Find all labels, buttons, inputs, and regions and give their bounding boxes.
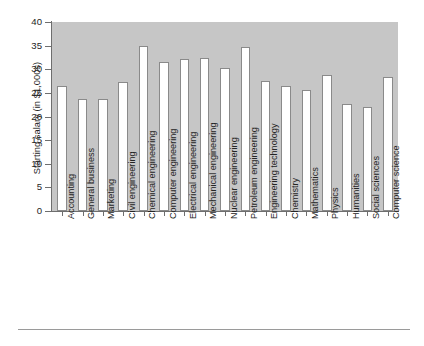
bar [200,58,210,211]
x-tick [62,212,63,216]
bar [57,86,67,211]
x-tick [103,212,104,216]
x-tick [286,212,287,216]
y-tick-label-10: 10 [0,159,42,169]
x-tick [164,212,165,216]
y-tick-label-40: 40 [0,17,42,27]
bar [118,82,128,211]
bar [261,81,271,211]
y-tick-label-35: 35 [0,41,42,51]
bar [322,75,332,211]
bar [383,77,393,211]
x-tick [123,212,124,216]
x-tick [245,212,246,216]
x-tick [184,212,185,216]
x-tick [225,212,226,216]
y-tick-label-15: 15 [0,135,42,145]
y-tick-label-0: 0 [0,206,42,216]
bar [98,99,108,211]
x-tick [367,212,368,216]
y-tick-label-5: 5 [0,182,42,192]
y-tick-25 [45,93,52,94]
bar [139,46,149,211]
x-tick [205,212,206,216]
x-tick [347,212,348,216]
y-tick-10 [45,164,52,165]
y-tick-40 [45,22,52,23]
page-top-artifact [40,3,240,9]
y-tick-15 [45,140,52,141]
bottom-divider [18,329,410,330]
bar [220,68,230,211]
bar-chart-figure: Starting salary (in $1,000s) 40353025201… [0,0,424,346]
bar [363,107,373,211]
x-tick [327,212,328,216]
y-tick-35 [45,46,52,47]
bar-series [52,22,398,211]
y-tick-30 [45,69,52,70]
y-tick-20 [45,117,52,118]
x-tick [266,212,267,216]
bar [180,59,190,211]
bar [302,90,312,211]
bar [159,62,169,211]
x-tick [144,212,145,216]
x-tick [306,212,307,216]
bar [78,99,88,211]
y-tick-label-25: 25 [0,88,42,98]
y-tick-label-20: 20 [0,112,42,122]
bar [241,47,251,211]
bar [342,104,352,211]
x-tick [83,212,84,216]
x-tick [388,212,389,216]
bar [281,86,291,211]
y-tick-5 [45,187,52,188]
y-tick-label-30: 30 [0,64,42,74]
y-tick-0 [45,211,52,212]
